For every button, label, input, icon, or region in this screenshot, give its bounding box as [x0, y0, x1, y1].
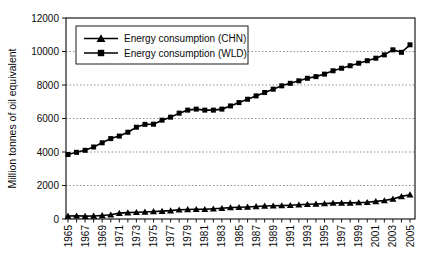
x-tick-label: 1993	[302, 225, 313, 248]
y-tick-label: 6000	[37, 113, 60, 124]
x-tick-label: 1991	[285, 225, 296, 248]
square-marker	[160, 118, 165, 123]
square-marker	[151, 122, 156, 127]
y-tick-label: 0	[53, 214, 59, 225]
square-marker	[168, 115, 173, 120]
x-tick-label: 1987	[251, 225, 262, 248]
y-tick-label: 10000	[31, 46, 59, 57]
square-marker	[365, 58, 370, 63]
x-tick-label: 1971	[114, 225, 125, 248]
square-marker	[177, 111, 182, 116]
square-marker	[66, 152, 71, 157]
square-marker	[348, 63, 353, 68]
square-marker	[390, 47, 395, 52]
square-marker	[202, 108, 207, 113]
square-marker	[373, 56, 378, 61]
square-marker	[117, 134, 122, 139]
x-tick-label: 1981	[199, 225, 210, 248]
square-marker	[74, 150, 79, 155]
x-tick-label: 1983	[216, 225, 227, 248]
y-tick-label: 4000	[37, 147, 60, 158]
square-marker	[100, 140, 105, 145]
square-marker	[322, 72, 327, 77]
square-marker	[399, 50, 404, 55]
y-tick-label: 2000	[37, 180, 60, 191]
square-marker	[339, 66, 344, 71]
x-tick-label: 1997	[336, 225, 347, 248]
square-marker	[237, 100, 242, 105]
x-tick-label: 1973	[131, 225, 142, 248]
square-marker	[91, 144, 96, 149]
square-marker	[408, 42, 413, 47]
square-marker	[288, 81, 293, 86]
x-tick-label: 1979	[182, 225, 193, 248]
energy-consumption-chart: 0200040006000800010000120001965196719691…	[0, 0, 432, 264]
square-marker	[305, 76, 310, 81]
square-marker	[194, 107, 199, 112]
x-tick-label: 1965	[63, 225, 74, 248]
x-tick-label: 1985	[234, 225, 245, 248]
square-marker	[356, 61, 361, 66]
x-tick-label: 1975	[148, 225, 159, 248]
square-marker	[219, 107, 224, 112]
square-marker	[331, 68, 336, 73]
legend-label: Energy consumption (WLD)	[124, 48, 247, 59]
x-tick-label: 2005	[405, 225, 416, 248]
square-marker	[98, 50, 104, 56]
square-marker	[245, 97, 250, 102]
square-marker	[83, 148, 88, 153]
x-tick-label: 2003	[387, 225, 398, 248]
square-marker	[313, 74, 318, 79]
y-tick-label: 12000	[31, 13, 59, 24]
square-marker	[134, 125, 139, 130]
square-marker	[125, 130, 130, 135]
square-marker	[142, 122, 147, 127]
x-tick-label: 2001	[370, 225, 381, 248]
square-marker	[254, 93, 259, 98]
square-marker	[211, 108, 216, 113]
x-tick-label: 1967	[80, 225, 91, 248]
square-marker	[296, 78, 301, 83]
square-marker	[279, 83, 284, 88]
legend-label: Energy consumption (CHN)	[124, 33, 246, 44]
y-tick-label: 8000	[37, 80, 60, 91]
square-marker	[271, 87, 276, 92]
square-marker	[262, 90, 267, 95]
x-tick-label: 1989	[268, 225, 279, 248]
series-chn	[65, 191, 414, 219]
x-tick-label: 1969	[97, 225, 108, 248]
square-marker	[228, 103, 233, 108]
y-axis-title: Million tonnes of oil equivalent	[6, 48, 18, 188]
chart-canvas: 0200040006000800010000120001965196719691…	[0, 0, 432, 264]
x-tick-label: 1977	[165, 225, 176, 248]
square-marker	[382, 52, 387, 57]
square-marker	[108, 136, 113, 141]
square-marker	[185, 108, 190, 113]
x-tick-label: 1999	[353, 225, 364, 248]
x-tick-label: 1995	[319, 225, 330, 248]
